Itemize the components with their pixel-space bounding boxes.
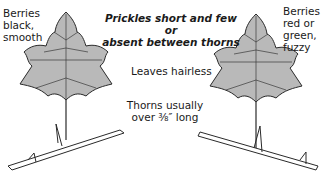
right-berries-line4: fuzzy [283, 41, 320, 53]
left-berries-line3: smooth [3, 31, 42, 43]
right-berries-line3: green, [283, 29, 320, 41]
left-berries-label: Berries black, smooth [3, 7, 42, 43]
prickles-line2: absent between thorns [100, 36, 242, 48]
leaves-label: Leaves hairless [131, 65, 212, 77]
thorns-label: Thorns usually over ⅜″ long [120, 99, 210, 123]
thorns-line2: over ⅜″ long [120, 111, 210, 123]
right-berries-line1: Berries [283, 5, 320, 17]
thorns-line1: Thorns usually [120, 99, 210, 111]
left-berries-line1: Berries [3, 7, 42, 19]
left-berries-line2: black, [3, 19, 42, 31]
right-berries-label: Berries red or green, fuzzy [283, 5, 320, 53]
prickles-line1: Prickles short and few or [100, 12, 242, 36]
right-berries-line2: red or [283, 17, 320, 29]
right-stem-icon [198, 126, 318, 170]
prickles-label: Prickles short and few or absent between… [100, 12, 242, 48]
